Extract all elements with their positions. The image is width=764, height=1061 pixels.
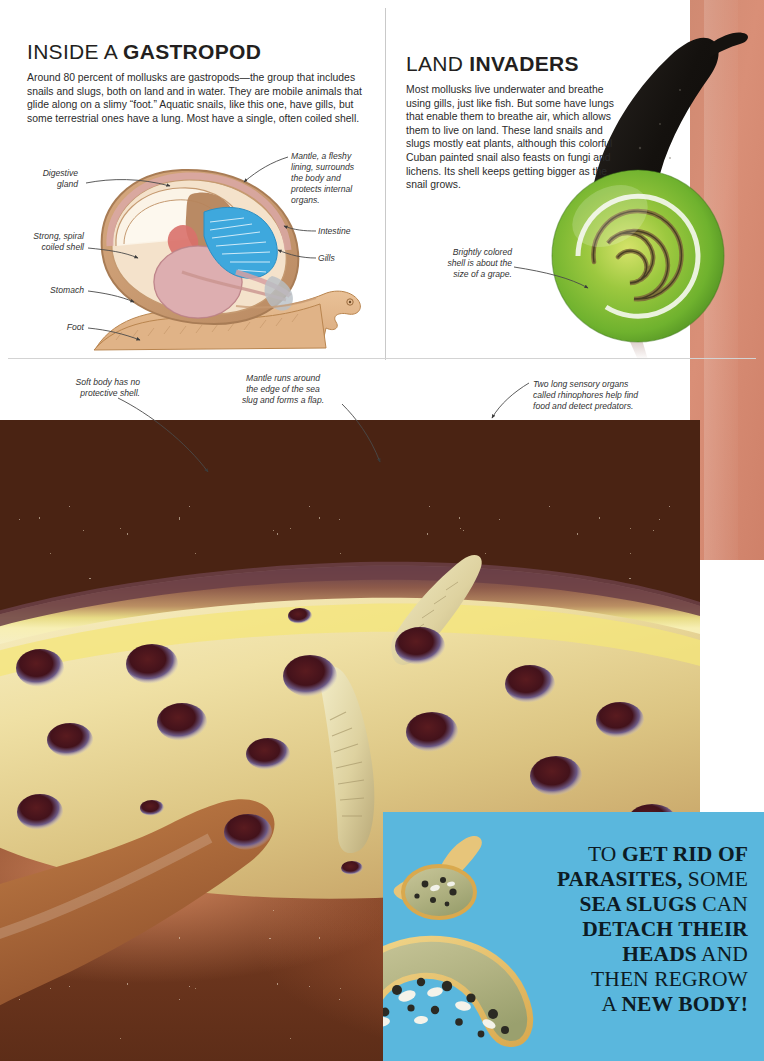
fact-line3-plain: CAN	[697, 892, 748, 916]
callout-coiled-shell: Strong, spiral coiled shell	[6, 231, 84, 253]
horizontal-divider	[8, 358, 756, 359]
fact-text-block: TO GET RID OF PARASITES, SOME SEA SLUGS …	[543, 842, 748, 1017]
fact-line2-bold: PARASITES,	[557, 867, 682, 891]
fact-line3-bold: SEA SLUGS	[579, 892, 696, 916]
callout-rhinophores: Two long sensory organs called rhinophor…	[533, 379, 689, 412]
page-title-gastropod: INSIDE A GASTROPOD	[27, 40, 367, 64]
fact-line1-bold: GET RID OF	[622, 842, 748, 866]
callout-foot: Foot	[6, 322, 84, 333]
fact-line7-bold: NEW BODY!	[621, 992, 748, 1016]
callout-mantle: Mantle, a fleshy lining, surrounds the b…	[291, 151, 377, 206]
callout-stomach: Stomach	[6, 285, 84, 296]
fact-line4-bold: DETACH THEIR	[582, 917, 748, 941]
fact-line5-bold: HEADS	[622, 942, 697, 966]
gastropod-heading-bold: GASTROPOD	[123, 40, 261, 63]
section-inside-a-gastropod: INSIDE A GASTROPOD Around 80 percent of …	[27, 40, 367, 125]
fact-line2-plain: SOME	[682, 867, 748, 891]
fact-line7-plain: A	[602, 992, 622, 1016]
fact-line5-plain: AND	[697, 942, 748, 966]
land-body-text: Most mollusks live underwater and breath…	[406, 83, 621, 192]
callout-mantle-flap: Mantle runs around the edge of the sea s…	[219, 373, 347, 406]
callout-intestine: Intestine	[318, 226, 378, 237]
fact-line1-plain: TO	[588, 842, 622, 866]
gastropod-heading-light: INSIDE A	[27, 40, 123, 63]
gastropod-body-text: Around 80 percent of mollusks are gastro…	[27, 71, 367, 125]
vertical-divider	[385, 8, 386, 360]
land-heading-bold: INVADERS	[469, 52, 578, 75]
green-spiral-shell	[552, 170, 724, 342]
callout-soft-body: Soft body has no protective shell.	[30, 377, 140, 399]
fact-callout-box: TO GET RID OF PARASITES, SOME SEA SLUGS …	[383, 812, 764, 1061]
callout-shell-grape: Brightly colored shell is about the size…	[400, 247, 512, 280]
land-heading-light: LAND	[406, 52, 469, 75]
callout-gills: Gills	[318, 253, 378, 264]
page-title-land-invaders: LAND INVADERS	[406, 52, 621, 76]
section-land-invaders: LAND INVADERS Most mollusks live underwa…	[406, 52, 621, 192]
page-canvas: INSIDE A GASTROPOD Around 80 percent of …	[0, 0, 764, 1061]
callout-digestive-gland: Digestive gland	[6, 168, 78, 190]
fact-line6-plain: THEN REGROW	[591, 967, 748, 991]
